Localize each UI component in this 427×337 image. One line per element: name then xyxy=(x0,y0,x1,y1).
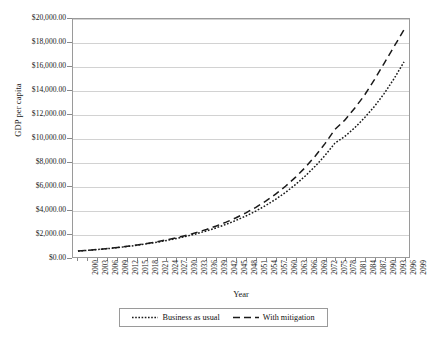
x-axis-tick-label: 2036 xyxy=(211,260,219,290)
chart-legend: Business as usual With mitigation xyxy=(119,308,328,327)
series-line-business-as-usual xyxy=(78,62,404,251)
x-axis-tick-label: 2066 xyxy=(311,260,319,290)
x-axis-tick-label: 2078 xyxy=(350,260,358,290)
x-axis-tick-label: 2030 xyxy=(191,260,199,290)
x-axis-tick-label: 2021 xyxy=(162,260,170,290)
x-axis-tick-label: 2018 xyxy=(152,260,160,290)
gdp-per-capita-chart: GDP per capita $0.00$2,000.00$4,000.00$6… xyxy=(0,0,427,337)
legend-item-with-mitigation: With mitigation xyxy=(233,313,315,322)
y-axis-tick-label: $6,000.00 xyxy=(36,182,66,190)
x-axis-tick-label: 2099 xyxy=(420,260,427,290)
dotted-line-icon xyxy=(132,314,158,321)
x-axis-tick-label: 2060 xyxy=(291,260,299,290)
y-axis-tick-labels: $0.00$2,000.00$4,000.00$6,000.00$8,000.0… xyxy=(0,0,70,270)
y-axis-tick-label: $20,000.00 xyxy=(32,14,66,22)
y-axis-tick-label: $8,000.00 xyxy=(36,158,66,166)
dashed-line-icon xyxy=(233,314,259,321)
x-axis-tick-label: 2069 xyxy=(321,260,329,290)
x-axis-tick-label: 2042 xyxy=(231,260,239,290)
x-axis-tick-label: 2048 xyxy=(251,260,259,290)
x-axis-tick-label: 2051 xyxy=(261,260,269,290)
x-axis-tick-label: 2000 xyxy=(92,260,100,290)
plot-area xyxy=(72,18,410,258)
y-axis-tick-label: $14,000.00 xyxy=(32,86,66,94)
x-axis-tick-label: 2054 xyxy=(271,260,279,290)
x-axis-tick-label: 2033 xyxy=(201,260,209,290)
y-axis-tick-label: $18,000.00 xyxy=(32,38,66,46)
x-axis-tick-label: 2093 xyxy=(400,260,408,290)
x-axis-tick-label: 2075 xyxy=(341,260,349,290)
x-axis-tick-label: 2087 xyxy=(380,260,388,290)
x-axis-tick-label: 2003 xyxy=(102,260,110,290)
y-axis-tick-label: $2,000.00 xyxy=(36,230,66,238)
legend-item-business-as-usual: Business as usual xyxy=(132,313,219,322)
x-axis-tick-label: 2015 xyxy=(142,260,150,290)
x-axis-tick-label: 2009 xyxy=(122,260,130,290)
x-axis-title: Year xyxy=(72,289,410,299)
x-axis-tick-label: 2084 xyxy=(370,260,378,290)
legend-label-with-mitigation: With mitigation xyxy=(263,313,315,322)
x-axis-tick-label: 2024 xyxy=(172,260,180,290)
x-axis-tick-labels: 2000200320062009201220152018202120242027… xyxy=(72,260,410,290)
x-axis-tick-label: 2081 xyxy=(360,260,368,290)
x-axis-tick-label: 2045 xyxy=(241,260,249,290)
x-axis-tick-label: 2027 xyxy=(181,260,189,290)
x-axis-tick-label: 2012 xyxy=(132,260,140,290)
y-axis-tick-label: $16,000.00 xyxy=(32,62,66,70)
x-axis-tick-label: 2096 xyxy=(410,260,418,290)
series-lines xyxy=(73,19,409,257)
x-axis-tick-label: 2063 xyxy=(301,260,309,290)
y-axis-tick-label: $0.00 xyxy=(49,254,66,262)
x-axis-tick-label: 2072 xyxy=(331,260,339,290)
y-axis-tick-label: $4,000.00 xyxy=(36,206,66,214)
y-axis-tick-label: $12,000.00 xyxy=(32,110,66,118)
series-line-with-mitigation xyxy=(78,30,404,251)
legend-label-business-as-usual: Business as usual xyxy=(162,313,219,322)
x-axis-tick-label: 2006 xyxy=(112,260,120,290)
x-axis-tick-label: 2090 xyxy=(390,260,398,290)
x-axis-tick-label: 2057 xyxy=(281,260,289,290)
y-axis-tick-label: $10,000.00 xyxy=(32,134,66,142)
x-axis-tick-label: 2039 xyxy=(221,260,229,290)
